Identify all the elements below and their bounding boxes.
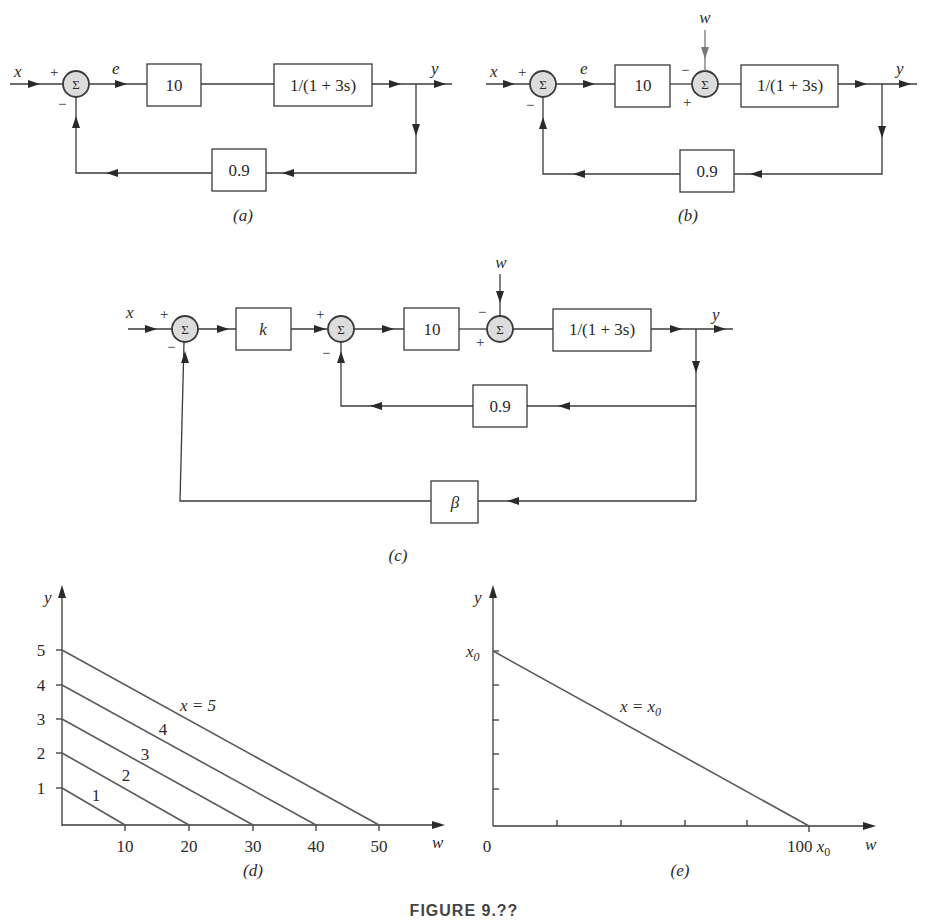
- d-xlabel: w: [432, 833, 444, 852]
- svg-text:20: 20: [181, 837, 198, 856]
- e-caption: (e): [671, 861, 690, 880]
- c-controller-text: k: [259, 320, 267, 339]
- d-line-label-2: 2: [122, 766, 131, 785]
- c-sum3-symbol: Σ: [496, 322, 504, 337]
- b-sum1-plus: +: [518, 64, 526, 80]
- a-feedback-text: 0.9: [228, 161, 249, 180]
- e-origin-label: 0: [483, 837, 492, 856]
- e-line-label: x = x0: [619, 697, 661, 719]
- a-plant-text: 1/(1 + 3s): [290, 76, 356, 95]
- d-line-label-4: 4: [159, 720, 168, 739]
- b-sum1-symbol: Σ: [539, 77, 547, 92]
- c-inner-feedback-text: 0.9: [489, 397, 510, 416]
- e-ylabel: y: [472, 588, 482, 607]
- c-sum3-minus: −: [478, 304, 486, 320]
- a-input-label: x: [13, 62, 22, 81]
- d-ylabel: y: [42, 588, 52, 607]
- panel-d-plot: y w 5 4 3 2 1 10 20 30 40 50: [37, 585, 445, 880]
- c-sum1-minus: −: [167, 339, 175, 355]
- d-line-label-3: 3: [141, 745, 150, 764]
- svg-text:50: 50: [371, 837, 388, 856]
- b-output-label: y: [894, 59, 904, 78]
- b-sum1-minus: −: [526, 97, 534, 113]
- a-output-label: y: [429, 59, 439, 78]
- c-disturbance-label: w: [495, 253, 507, 272]
- e-y-intercept-label: x0: [465, 642, 480, 664]
- c-sum2-minus: −: [322, 345, 330, 361]
- c-gain-text: 10: [424, 320, 441, 339]
- panel-a-block-diagram: x + − Σ e 10 1/(1 + 3s) y 0.9 (a): [10, 59, 452, 225]
- b-sum2-minus: −: [681, 62, 689, 78]
- b-caption: (b): [678, 206, 698, 225]
- d-yticks: 5 4 3 2 1: [37, 641, 62, 798]
- e-x-intercept-label: 100 x0: [787, 837, 830, 859]
- d-line-label-1: 1: [92, 786, 101, 805]
- c-sum2-symbol: Σ: [337, 322, 345, 337]
- e-line: [493, 651, 809, 826]
- c-output-label: y: [710, 305, 720, 324]
- a-sum-minus: −: [58, 96, 66, 112]
- panel-c-block-diagram: x + − Σ k + − Σ 10 − + Σ w 1/(1 + 3s) y: [125, 253, 733, 565]
- d-line-x2: [62, 753, 189, 825]
- svg-text:2: 2: [37, 744, 46, 763]
- c-sum3-plus: +: [476, 334, 484, 350]
- panel-b-block-diagram: x + − Σ e 10 − + Σ w 1/(1 + 3s) y 0.9: [486, 8, 917, 225]
- d-line-label-5: x = 5: [179, 696, 216, 715]
- b-sum2-symbol: Σ: [701, 77, 709, 92]
- svg-text:3: 3: [37, 710, 46, 729]
- c-outer-feedback-text: β: [450, 493, 460, 512]
- svg-text:5: 5: [37, 641, 46, 660]
- c-sum2-plus: +: [316, 306, 324, 322]
- b-sum2-plus: +: [683, 94, 691, 110]
- d-caption: (d): [243, 861, 263, 880]
- a-sum-symbol: Σ: [72, 77, 80, 92]
- c-input-label: x: [125, 303, 134, 322]
- d-xticks: 10 20 30 40 50: [117, 825, 388, 856]
- a-sum-plus: +: [50, 64, 58, 80]
- d-line-x3: [62, 719, 253, 825]
- c-sum1-plus: +: [160, 306, 168, 322]
- b-plant-text: 1/(1 + 3s): [757, 76, 823, 95]
- c-plant-text: 1/(1 + 3s): [569, 320, 635, 339]
- figure-caption-clipped: FIGURE 9.??: [0, 902, 928, 920]
- b-error-label: e: [580, 59, 588, 78]
- a-gain-text: 10: [166, 76, 183, 95]
- svg-text:40: 40: [308, 837, 325, 856]
- c-sum1-symbol: Σ: [181, 322, 189, 337]
- svg-text:30: 30: [245, 837, 262, 856]
- svg-text:10: 10: [117, 837, 134, 856]
- b-gain-text: 10: [635, 76, 652, 95]
- panel-e-plot: y w x0 0 100 x0 x = x0 (e): [465, 585, 877, 880]
- svg-text:4: 4: [37, 676, 46, 695]
- b-feedback-text: 0.9: [696, 162, 717, 181]
- svg-text:1: 1: [37, 779, 46, 798]
- d-line-x5: [62, 650, 379, 825]
- b-input-label: x: [489, 62, 498, 81]
- e-yticks: [493, 651, 499, 789]
- c-caption: (c): [389, 546, 408, 565]
- a-caption: (a): [233, 206, 253, 225]
- b-disturbance-label: w: [699, 8, 711, 27]
- e-xlabel: w: [865, 835, 877, 854]
- a-error-label: e: [112, 59, 120, 78]
